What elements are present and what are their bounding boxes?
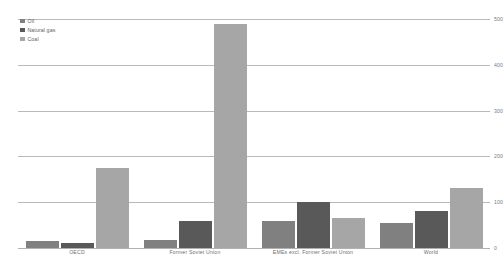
bar-group	[372, 19, 490, 248]
legend: OilNatural gasCoal	[20, 17, 55, 44]
bar	[380, 223, 413, 248]
legend-swatch-icon	[20, 37, 25, 42]
bar	[415, 211, 448, 248]
x-axis-tick-label: Former Soviet Union	[136, 249, 254, 255]
bar	[450, 188, 483, 248]
x-axis-labels: OECDFormer Soviet UnionEMEs excl. Former…	[18, 249, 490, 255]
legend-item[interactable]: Oil	[20, 17, 55, 25]
y-axis-tick-label: 400	[494, 62, 503, 68]
bar	[96, 168, 129, 248]
bar	[214, 24, 247, 248]
bar	[61, 243, 94, 248]
legend-item[interactable]: Natural gas	[20, 26, 55, 34]
bar	[144, 240, 177, 248]
bar-chart: OECDFormer Soviet UnionEMEs excl. Former…	[0, 0, 504, 271]
bar	[26, 241, 59, 248]
plot-area	[18, 19, 490, 248]
legend-swatch-icon	[20, 19, 25, 24]
y-axis-tick-label: 200	[494, 153, 503, 159]
legend-item-label: Oil	[28, 18, 35, 24]
legend-item-label: Natural gas	[28, 27, 56, 33]
legend-swatch-icon	[20, 28, 25, 33]
bar-group	[136, 19, 254, 248]
y-axis-tick-label: 0	[494, 245, 497, 251]
bar-group	[254, 19, 372, 248]
bar-groups	[18, 19, 490, 248]
bar	[262, 221, 295, 248]
y-axis-tick-label: 300	[494, 108, 503, 114]
x-axis-tick-label: OECD	[18, 249, 136, 255]
bar	[179, 221, 212, 248]
bar-group	[18, 19, 136, 248]
x-axis-tick-label: EMEs excl. Former Soviet Union	[254, 249, 372, 255]
bar	[297, 202, 330, 248]
y-axis-tick-label: 100	[494, 199, 503, 205]
legend-item[interactable]: Coal	[20, 35, 55, 43]
x-axis-tick-label: World	[372, 249, 490, 255]
bar	[332, 218, 365, 248]
y-axis-tick-label: 500	[494, 16, 503, 22]
legend-item-label: Coal	[28, 36, 39, 42]
